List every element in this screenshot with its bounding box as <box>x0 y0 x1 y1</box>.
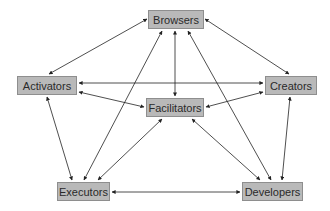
relationship-diagram: Browsers Activators Creators Facilitator… <box>0 0 330 211</box>
edge-facilitators-developers <box>192 119 260 180</box>
node-browsers: Browsers <box>148 10 204 29</box>
edge-creators-developers <box>282 97 290 180</box>
edge-creators-facilitators <box>206 92 263 107</box>
node-creators: Creators <box>265 76 317 95</box>
node-developers: Developers <box>242 182 303 201</box>
edge-browsers-activators <box>49 19 147 74</box>
edge-activators-facilitators <box>79 92 144 107</box>
node-facilitators: Facilitators <box>146 98 204 117</box>
node-activators: Activators <box>17 76 77 95</box>
edge-activators-executors <box>47 97 72 180</box>
edge-facilitators-executors <box>98 119 162 180</box>
node-executors: Executors <box>57 182 110 201</box>
edge-browsers-creators <box>205 19 289 74</box>
